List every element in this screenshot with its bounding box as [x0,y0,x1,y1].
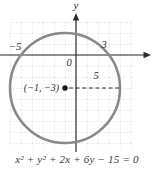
x-axis-arrow-icon [144,52,152,58]
radius-length-label: 5 [91,70,101,81]
y-axis-label: y [71,0,81,11]
x-intercept-left-label: −5 [6,41,24,52]
equation-text: x² + y² + 2x + 6y − 15 = 0 [0,154,154,165]
y-axis-arrow-icon [73,13,79,21]
x-intercept-right-label: 3 [98,39,110,50]
circle-center-dot [62,85,67,90]
figure-canvas: y −5 3 0 (−1, −3) 5 x² + y² + 2x + 6y − … [0,0,154,174]
center-coordinates-label: (−1, −3) [13,82,59,93]
origin-label: 0 [64,57,74,68]
